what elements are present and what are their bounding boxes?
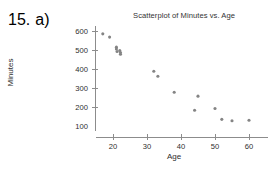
y-tick-label: 100 <box>75 122 88 131</box>
data-point <box>173 91 176 94</box>
x-tick-label: 30 <box>143 142 151 151</box>
scatterplot-figure: 15. a) Scatterplot of Minutes vs. Age 10… <box>0 0 278 178</box>
x-axis-title: Age <box>95 152 253 161</box>
data-point <box>101 32 104 35</box>
data-point <box>230 119 233 122</box>
y-tick-label: 500 <box>75 46 88 55</box>
data-point <box>213 107 216 110</box>
data-point <box>220 118 223 121</box>
x-axis: 2030405060 <box>96 134 268 151</box>
data-point <box>119 53 122 56</box>
x-tick-label: 20 <box>109 142 117 151</box>
x-tick-label: 50 <box>211 142 219 151</box>
data-point <box>196 95 199 98</box>
data-point <box>156 75 159 78</box>
y-tick-label: 400 <box>75 65 88 74</box>
data-points <box>101 32 250 122</box>
data-point <box>152 70 155 73</box>
x-tick-label: 40 <box>177 142 185 151</box>
data-point <box>193 109 196 112</box>
data-point <box>116 50 119 53</box>
x-tick-label: 60 <box>245 142 253 151</box>
data-point <box>247 119 250 122</box>
data-point <box>108 36 111 39</box>
y-axis-title: Minutes <box>6 44 15 102</box>
y-axis: 100200300400500600 <box>75 26 98 131</box>
y-tick-label: 600 <box>75 27 88 36</box>
y-tick-label: 300 <box>75 84 88 93</box>
y-tick-label: 200 <box>75 103 88 112</box>
